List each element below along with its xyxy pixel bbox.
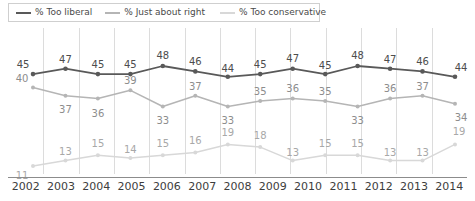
x-axis-tick-2003: 2003	[47, 181, 75, 192]
value-label-too-conservative-2011: 15	[319, 139, 332, 149]
value-label-too-conservative-2007: 16	[189, 136, 202, 146]
x-axis-tick-2008: 2008	[224, 181, 252, 192]
value-label-too-liberal-2003: 47	[59, 55, 72, 65]
value-label-too-liberal-2009: 45	[254, 60, 267, 70]
legend-item-too-conservative[interactable]: % Too conservative	[220, 8, 326, 17]
value-label-just-about-right-2010: 36	[286, 84, 299, 94]
value-label-too-conservative-2006: 15	[156, 139, 169, 149]
value-label-just-about-right-2007: 37	[189, 82, 202, 92]
x-axis-tick-2007: 2007	[188, 181, 216, 192]
value-label-just-about-right-2014: 37	[416, 82, 429, 92]
value-label-too-liberal-2007: 46	[189, 57, 202, 67]
x-axis-labels: 2002200320042005200620072008200920102011…	[0, 181, 475, 199]
value-label-just-about-right-2002: 40	[16, 74, 29, 84]
x-axis-line	[8, 177, 467, 178]
value-label-too-liberal-2005: 45	[124, 60, 137, 70]
value-label-too-conservative-2010: 13	[286, 148, 299, 158]
x-axis-tick-2013: 2013	[400, 181, 428, 192]
value-label-just-about-right-2012: 33	[351, 116, 364, 126]
value-label-just-about-right-2011: 35	[319, 87, 332, 97]
x-axis-tick-2006: 2006	[153, 181, 181, 192]
value-label-too-conservative-2014: 19	[453, 127, 466, 137]
value-label-too-conservative-2008: 19	[221, 128, 234, 138]
value-label-just-about-right-2006: 33	[156, 116, 169, 126]
value-label-just-about-right-2004: 36	[92, 109, 105, 119]
value-label-too-liberal-2012: 48	[351, 51, 364, 61]
value-label-too-conservative-2005: 14	[124, 145, 137, 155]
value-label-too-liberal-2014: 44	[455, 63, 468, 73]
legend-label-too-conservative: % Too conservative	[239, 8, 326, 17]
value-label-too-liberal-2013: 47	[384, 55, 397, 65]
value-label-just-about-right-2013: 36	[384, 84, 397, 94]
value-label-too-liberal-2006: 48	[156, 51, 169, 61]
value-label-too-liberal-2002: 45	[17, 60, 30, 70]
value-label-too-conservative-2003: 13	[59, 147, 72, 157]
legend-swatch-too-conservative	[220, 12, 235, 14]
plot-area: 4547454548464445474548474644403736393337…	[0, 28, 475, 174]
value-label-too-liberal-2014: 46	[416, 57, 429, 67]
x-axis-tick-2011: 2011	[329, 181, 357, 192]
x-axis-tick-2005: 2005	[118, 181, 146, 192]
legend-swatch-just-about-right	[105, 12, 120, 14]
legend-label-too-liberal: % Too liberal	[35, 8, 92, 17]
chart-legend: % Too liberal % Just about right % Too c…	[8, 3, 320, 22]
value-label-too-liberal-2008: 44	[221, 64, 234, 74]
value-label-too-conservative-2004: 15	[92, 139, 105, 149]
x-axis-tick-2009: 2009	[259, 181, 287, 192]
value-label-too-liberal-2010: 47	[286, 54, 299, 64]
x-axis-tick-2010: 2010	[294, 181, 322, 192]
value-label-too-conservative-2014: 13	[416, 148, 429, 158]
legend-item-too-liberal[interactable]: % Too liberal	[16, 8, 92, 17]
value-label-too-conservative-2009: 18	[254, 131, 267, 141]
legend-label-just-about-right: % Just about right	[124, 8, 205, 17]
x-axis-tick-2002: 2002	[12, 181, 40, 192]
x-axis-tick-2012: 2012	[365, 181, 393, 192]
value-label-just-about-right-2008: 33	[221, 116, 234, 126]
value-label-too-conservative-2013: 13	[384, 148, 397, 158]
line-chart: % Too liberal % Just about right % Too c…	[0, 0, 475, 201]
value-label-too-conservative-2012: 15	[351, 139, 364, 149]
x-axis-tick-2014: 2014	[435, 181, 463, 192]
value-label-just-about-right-2003: 37	[59, 105, 72, 115]
value-label-just-about-right-2014: 34	[455, 113, 468, 123]
legend-swatch-too-liberal	[16, 12, 31, 14]
legend-item-just-about-right[interactable]: % Just about right	[105, 8, 205, 17]
value-label-too-liberal-2004: 45	[92, 60, 105, 70]
value-label-too-liberal-2011: 45	[319, 61, 332, 71]
value-label-just-about-right-2005: 39	[124, 76, 137, 86]
x-axis-tick-2004: 2004	[82, 181, 110, 192]
value-label-just-about-right-2009: 35	[254, 87, 267, 97]
gridlines	[44, 28, 433, 174]
